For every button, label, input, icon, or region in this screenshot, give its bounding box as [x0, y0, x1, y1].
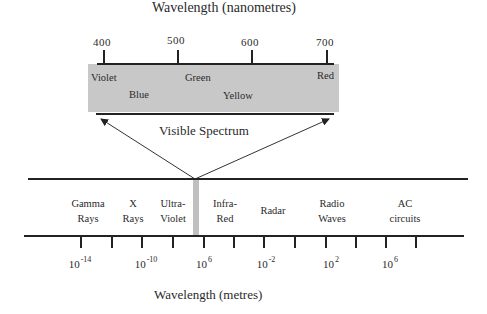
- band-label-line1: Radar: [260, 203, 285, 218]
- exponent-base: 10: [69, 258, 80, 270]
- band-label-line2: Rays: [123, 211, 144, 226]
- band-label-line1: Ultra-: [160, 196, 186, 211]
- visible-spectrum-box: [88, 64, 339, 112]
- metre-tick-label: 106: [196, 255, 212, 270]
- metre-tick-label: 102: [323, 255, 339, 270]
- band-label-line2: Waves: [318, 211, 346, 226]
- band-label: ACcircuits: [390, 196, 421, 226]
- band-label: RadioWaves: [318, 196, 346, 226]
- metre-tick-label: 10-2: [257, 255, 276, 270]
- band-label: Infra-Red: [213, 196, 237, 226]
- metre-axis-title: Wavelength (metres): [154, 287, 262, 303]
- band-label: XRays: [123, 196, 144, 226]
- nm-axis-title: Wavelength (nanometres): [152, 0, 296, 16]
- nm-tick-label: 600: [241, 36, 259, 48]
- color-label-violet: Violet: [91, 72, 117, 83]
- exponent-power: 2: [335, 255, 339, 264]
- nm-tick-label: 700: [316, 36, 334, 48]
- visible-spectrum-caption: Visible Spectrum: [159, 123, 249, 139]
- exponent-power: -10: [147, 255, 158, 264]
- band-label-line1: X: [123, 196, 144, 211]
- exponent-power: -2: [269, 255, 276, 264]
- band-label-line2: circuits: [390, 211, 421, 226]
- nm-tick-label: 500: [167, 34, 185, 46]
- metre-tick-label: 10-14: [69, 255, 92, 270]
- exponent-base: 10: [257, 258, 268, 270]
- exponent-base: 10: [135, 258, 146, 270]
- color-label-yellow: Yellow: [223, 90, 253, 101]
- band-label-line2: Rays: [71, 211, 104, 226]
- nm-tick-label: 400: [93, 36, 111, 48]
- band-label-line1: Infra-: [213, 196, 237, 211]
- band-label-line1: AC: [390, 196, 421, 211]
- color-label-blue: Blue: [129, 89, 149, 100]
- exponent-power: -14: [81, 255, 92, 264]
- nm-axis-ticks: [104, 50, 327, 64]
- metre-tick-label: 10-10: [135, 255, 158, 270]
- band-label-line2: Violet: [160, 211, 186, 226]
- band-label-line2: Red: [213, 211, 237, 226]
- visible-band-marker: [193, 180, 199, 235]
- band-label: Ultra-Violet: [160, 196, 186, 226]
- exponent-base: 10: [196, 258, 207, 270]
- band-label: Radar: [260, 203, 285, 218]
- exponent-power: 6: [394, 255, 398, 264]
- band-label-line1: Gamma: [71, 196, 104, 211]
- band-label: GammaRays: [71, 196, 104, 226]
- color-label-red: Red: [317, 70, 334, 81]
- exponent-base: 10: [323, 258, 334, 270]
- metre-tick-label: 106: [382, 255, 398, 270]
- band-label-line1: Radio: [318, 196, 346, 211]
- exponent-power: 6: [208, 255, 212, 264]
- color-label-green: Green: [185, 72, 211, 83]
- exponent-base: 10: [382, 258, 393, 270]
- metre-axis-ticks: [81, 236, 416, 248]
